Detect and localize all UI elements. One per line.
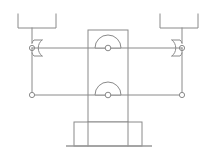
diagram-svg <box>0 0 216 154</box>
right-upper-bracket <box>160 14 198 43</box>
left-bracket-channel <box>18 14 56 28</box>
right-lower-joint-hole <box>179 92 184 97</box>
linkage-diagram-canvas <box>0 0 216 154</box>
upper-pivot-hole <box>105 45 111 51</box>
left-lower-joint-hole <box>29 92 34 97</box>
left-upper-bracket <box>18 14 56 43</box>
right-bracket-channel <box>160 14 198 28</box>
base-block <box>74 122 142 146</box>
lower-pivot-hole <box>105 92 111 98</box>
